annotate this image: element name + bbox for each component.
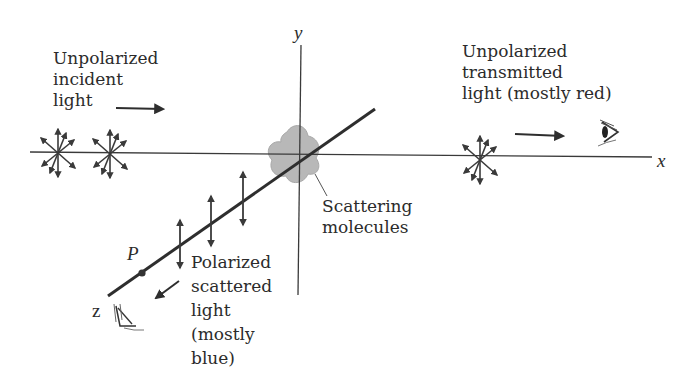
transmitted-light-label: Unpolarized transmitted light (mostly re… <box>462 41 612 104</box>
unpolarized-light-symbol <box>93 130 127 178</box>
x-axis-label: x <box>657 150 665 172</box>
eye-icon-z-axis <box>114 304 144 330</box>
x-axis <box>30 152 652 157</box>
point-p-label: P <box>127 243 139 265</box>
scattering-molecules-label: Scattering molecules <box>322 196 412 238</box>
point-p-marker <box>138 269 145 276</box>
scattered-direction-arrow <box>156 281 179 298</box>
unpolarized-light-symbol <box>41 129 75 177</box>
transmitted-direction-arrow <box>515 134 563 136</box>
unpolarized-light-symbol <box>463 136 497 184</box>
z-axis-label: z <box>92 300 100 322</box>
scattered-light-label: Polarized scattered light (mostly blue) <box>191 250 272 370</box>
eye-icon-x-axis <box>598 120 618 146</box>
y-axis-label: y <box>294 22 302 44</box>
incident-light-label: Unpolarized incident light <box>53 48 158 111</box>
molecules-leader-line <box>315 174 327 196</box>
